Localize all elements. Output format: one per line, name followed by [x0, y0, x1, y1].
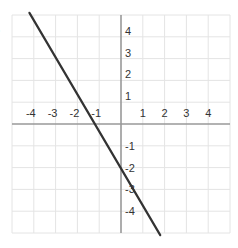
x-tick-label: 4 — [205, 107, 211, 119]
x-tick-label: -1 — [91, 107, 101, 119]
x-tick-label: 2 — [162, 107, 168, 119]
y-tick-label: 4 — [125, 25, 131, 37]
y-tick-label: -4 — [125, 205, 135, 217]
y-tick-label: -2 — [125, 162, 135, 174]
y-tick-label: 2 — [125, 68, 131, 80]
y-tick-label: 3 — [125, 47, 131, 59]
coordinate-plane: -4-3-2-11234 4321-1-2-3-4 — [0, 0, 238, 248]
x-tick-label: -3 — [48, 107, 58, 119]
y-tick-label: -1 — [125, 140, 135, 152]
x-tick-label: -2 — [70, 107, 80, 119]
x-tick-label: -4 — [26, 107, 36, 119]
x-tick-labels: -4-3-2-11234 — [26, 107, 211, 119]
y-tick-label: 1 — [125, 90, 131, 102]
x-tick-label: 1 — [140, 107, 146, 119]
axes — [12, 15, 230, 233]
x-tick-label: 3 — [183, 107, 189, 119]
